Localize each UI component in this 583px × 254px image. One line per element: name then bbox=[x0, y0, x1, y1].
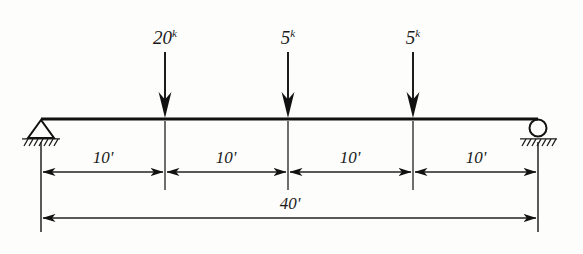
roller-support-circle bbox=[530, 120, 547, 137]
load-arrow-group-3: 5k bbox=[406, 27, 422, 118]
overall-span-dimension: 40' bbox=[43, 194, 536, 218]
dimension-segment-2: 10' bbox=[167, 148, 286, 172]
load-arrow-group-1: 20k bbox=[153, 27, 178, 118]
beam-diagram: 20k 5k 5k bbox=[0, 0, 583, 254]
dimension-segment-1: 10' bbox=[43, 148, 163, 172]
dimension-segment-1-label: 10' bbox=[93, 148, 114, 167]
beam-diagram-canvas: 20k 5k 5k bbox=[0, 0, 583, 254]
load-arrow-group-2: 5k bbox=[281, 27, 297, 118]
dimension-segment-4: 10' bbox=[415, 148, 536, 172]
load-label-1: 20k bbox=[153, 27, 178, 48]
dimension-segment-2-label: 10' bbox=[216, 148, 237, 167]
load-label-2: 5k bbox=[281, 27, 297, 48]
dimension-segment-3: 10' bbox=[290, 148, 411, 172]
load-label-3: 5k bbox=[406, 27, 422, 48]
overall-span-dimension-label: 40' bbox=[280, 194, 301, 213]
pin-support-triangle bbox=[28, 120, 54, 138]
dimension-segment-4-label: 10' bbox=[466, 148, 487, 167]
dimension-segment-3-label: 10' bbox=[340, 148, 361, 167]
roller-support-hatching bbox=[522, 139, 556, 146]
